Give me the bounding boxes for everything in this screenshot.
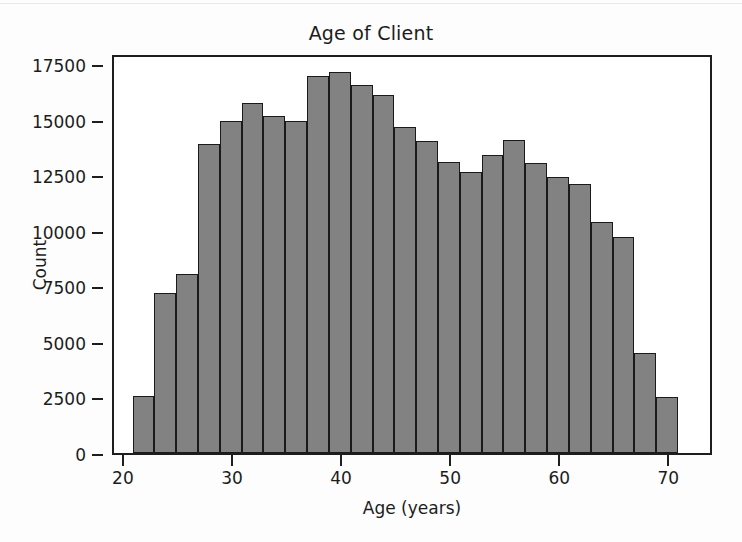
x-tick-mark [449, 455, 451, 466]
histogram-bar [634, 353, 656, 453]
x-tick-label: 20 [112, 468, 134, 488]
y-tick-mark [92, 176, 103, 178]
y-tick-label: 2500 [43, 389, 86, 409]
x-tick-label: 30 [221, 468, 243, 488]
histogram-bar [482, 155, 504, 453]
y-tick-label: 17500 [32, 56, 86, 76]
x-tick-label: 40 [330, 468, 352, 488]
y-tick-mark [92, 232, 103, 234]
y-tick-label: 15000 [32, 112, 86, 132]
histogram-bar [198, 144, 220, 453]
histogram-bar [263, 116, 285, 453]
histogram-bar [394, 127, 416, 453]
histogram-figure: Age of Client Count 02500500075001000012… [0, 0, 742, 542]
y-tick-mark [92, 398, 103, 400]
histogram-bar [656, 397, 678, 453]
plot-area [112, 55, 712, 455]
histogram-bar [176, 274, 198, 453]
y-tick-mark [92, 65, 103, 67]
histogram-bar [285, 121, 307, 453]
x-tick-label: 50 [439, 468, 461, 488]
y-tick-mark [92, 287, 103, 289]
x-axis: Age (years) 203040506070 [0, 455, 742, 542]
x-tick-mark [122, 455, 124, 466]
bars-layer [114, 57, 710, 453]
histogram-bar [329, 72, 351, 453]
histogram-bar [220, 121, 242, 453]
histogram-bar [242, 103, 264, 453]
histogram-bar [460, 172, 482, 453]
x-tick-mark [340, 455, 342, 466]
x-tick-label: 70 [658, 468, 680, 488]
histogram-bar [416, 141, 438, 453]
y-tick-label: 12500 [32, 167, 86, 187]
x-tick-mark [231, 455, 233, 466]
histogram-bar [569, 184, 591, 453]
histogram-bar [438, 162, 460, 453]
y-tick-mark [92, 121, 103, 123]
x-tick-mark [667, 455, 669, 466]
histogram-bar [591, 222, 613, 453]
histogram-bar [547, 177, 569, 453]
histogram-bar [154, 293, 176, 453]
histogram-bar [351, 85, 373, 453]
y-tick-label: 5000 [43, 334, 86, 354]
x-tick-mark [558, 455, 560, 466]
x-tick-label: 60 [548, 468, 570, 488]
histogram-bar [133, 396, 155, 453]
histogram-bar [525, 163, 547, 453]
histogram-bar [307, 76, 329, 453]
histogram-bar [613, 237, 635, 453]
histogram-bar [373, 95, 395, 453]
y-tick-label: 7500 [43, 278, 86, 298]
y-tick-mark [92, 343, 103, 345]
x-axis-label: Age (years) [112, 498, 712, 518]
histogram-bar [503, 140, 525, 453]
y-tick-label: 10000 [32, 223, 86, 243]
